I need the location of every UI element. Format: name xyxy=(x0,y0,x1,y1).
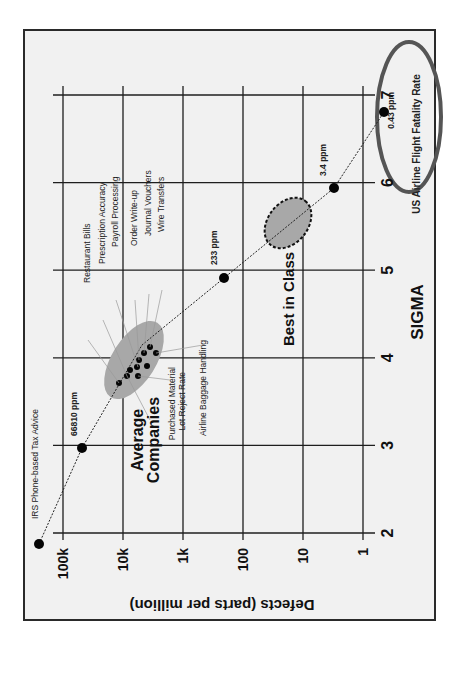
data-point xyxy=(34,539,44,549)
label-wire-transfers: Wire Transfers xyxy=(156,177,166,232)
label-best-in-class: Best in Class xyxy=(280,252,297,346)
data-point xyxy=(329,183,339,193)
trend-line xyxy=(39,112,384,544)
x-tick-label: 2 xyxy=(379,528,396,537)
label-payroll-processing: Payroll Processing xyxy=(110,176,120,247)
data-point-label: 66810 ppm xyxy=(69,392,79,436)
data-point-label: 233 ppm xyxy=(209,230,219,265)
y-tick-label: 100k xyxy=(55,548,71,579)
y-tick-label: 1k xyxy=(175,548,191,564)
axis-ticks: 100k10k1k100101234567 xyxy=(55,90,396,579)
label-prescription-accuracy: Prescription Accuracy xyxy=(97,182,107,264)
y-tick-label: 10 xyxy=(295,548,311,564)
average-companies-region xyxy=(92,311,176,409)
label-us-airline-fatality: US Airline Flight Fatality Rate xyxy=(411,74,422,214)
y-tick-label: 1 xyxy=(355,548,371,556)
x-axis-title: SIGMA xyxy=(408,284,427,340)
label-journal-vouchers: Journal Vouchers xyxy=(143,170,153,236)
y-axis-title: Defects (parts per million) xyxy=(129,597,314,614)
label-order-write-up: Order Write-up xyxy=(129,190,139,246)
best-in-class-region xyxy=(255,189,321,258)
label-companies: Companies xyxy=(145,397,162,483)
cluster-point xyxy=(144,363,150,369)
x-tick-label: 4 xyxy=(379,353,396,362)
sigma-chart: IRS Phone-based Tax Advice66810 ppm233 p… xyxy=(0,0,466,683)
label-restaurant-bills: Restaurant Bills xyxy=(82,223,92,283)
data-point xyxy=(77,443,87,453)
y-tick-label: 10k xyxy=(115,548,131,572)
y-tick-label: 100 xyxy=(235,548,251,572)
data-point-label: IRS Phone-based Tax Advice xyxy=(30,409,40,519)
data-point-label: 3.4 ppm xyxy=(318,143,328,176)
data-point xyxy=(219,273,229,283)
label-airline-baggage-handling: Airline Baggage Handling xyxy=(198,340,208,436)
cluster-point xyxy=(127,367,133,373)
label-average: Average xyxy=(129,409,146,472)
x-tick-label: 3 xyxy=(379,441,396,450)
x-tick-label: 7 xyxy=(379,90,396,99)
label-purchased-material: Purchased Material xyxy=(167,367,177,440)
data-points: IRS Phone-based Tax Advice66810 ppm233 p… xyxy=(30,92,396,549)
x-tick-label: 5 xyxy=(379,266,396,275)
label-lot-reject-rate: Lot Reject Rate xyxy=(177,372,187,431)
x-tick-label: 6 xyxy=(379,178,396,187)
